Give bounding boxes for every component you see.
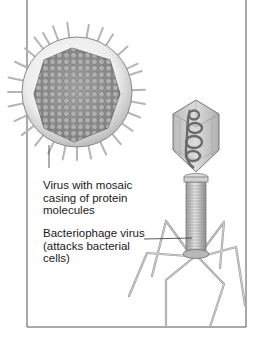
bacteriophage-label: Bacteriophage virus (attacks bacterial c… (43, 227, 145, 265)
mosaic-virus (8, 23, 145, 160)
virus-capsid (34, 48, 120, 142)
phage-head (173, 100, 219, 172)
virus-illustration (0, 0, 254, 337)
mosaic-label-line-3: molecules (43, 204, 132, 217)
bacteriophage-virus (129, 100, 245, 327)
phage-label-line-1: Bacteriophage virus (43, 227, 145, 240)
mosaic-label-line-2: casing of protein (43, 192, 132, 205)
phage-tail-sheath (186, 182, 206, 252)
mosaic-label-line-1: Virus with mosaic (43, 179, 132, 192)
phage-label-leader (144, 238, 192, 239)
phage-label-line-3: cells) (43, 252, 145, 265)
phage-label-line-2: (attacks bacterial (43, 240, 145, 253)
mosaic-virus-label: Virus with mosaic casing of protein mole… (43, 179, 132, 217)
phage-baseplate (183, 250, 209, 259)
